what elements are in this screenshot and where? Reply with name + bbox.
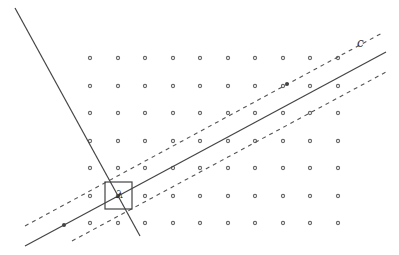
lattice-point: [336, 194, 339, 197]
lattice-point: [226, 56, 229, 59]
lattice-point: [226, 166, 229, 169]
lattice-point: [281, 221, 284, 224]
lattice-point: [143, 166, 146, 169]
lattice-point: [88, 84, 91, 87]
lattice-point: [308, 166, 311, 169]
lattice-diagram: [0, 0, 399, 255]
lattice-point: [198, 166, 201, 169]
lattice-point: [198, 56, 201, 59]
lattice-point: [171, 139, 174, 142]
lattice-point: [336, 139, 339, 142]
upper-marker-marker: [285, 82, 289, 86]
left-dot-marker: [62, 223, 66, 227]
lattice-point: [226, 139, 229, 142]
markers: [62, 82, 289, 227]
lattice-point: [88, 194, 91, 197]
lattice-point: [336, 166, 339, 169]
lattice-point: [143, 84, 146, 87]
label-c: c: [357, 36, 364, 50]
lattice-point: [88, 221, 91, 224]
lattice-point: [253, 166, 256, 169]
lattice-point: [198, 139, 201, 142]
lattice-point: [116, 166, 119, 169]
lattice-point: [171, 221, 174, 224]
lattice-point: [143, 221, 146, 224]
lattice-point: [116, 56, 119, 59]
lattice-point: [143, 56, 146, 59]
lattice-point: [226, 221, 229, 224]
lattice-point: [281, 166, 284, 169]
main-line-c: [25, 52, 386, 246]
lattice-point: [198, 84, 201, 87]
lattice-point: [171, 84, 174, 87]
label-lambda: λ: [116, 188, 124, 201]
lattice-point: [226, 111, 229, 114]
lattice-point: [116, 84, 119, 87]
lattice-point: [281, 111, 284, 114]
lattice-point: [281, 56, 284, 59]
lattice-point: [253, 221, 256, 224]
lattice-point: [171, 56, 174, 59]
lattice-point: [116, 111, 119, 114]
lattice-point: [281, 84, 284, 87]
lattice-point: [336, 221, 339, 224]
lattice-point: [116, 221, 119, 224]
lattice-point: [226, 84, 229, 87]
lattice-point: [308, 111, 311, 114]
lattice-point: [336, 84, 339, 87]
lattice-point: [308, 221, 311, 224]
lattice-point: [198, 111, 201, 114]
lattice-point: [171, 111, 174, 114]
lattice-point: [253, 84, 256, 87]
lattice-point: [308, 84, 311, 87]
lattice-point: [281, 194, 284, 197]
lattice-point: [281, 139, 284, 142]
lattice-point: [336, 111, 339, 114]
lattice-dots: [88, 56, 339, 224]
upper-dashed-line: [25, 32, 384, 226]
lower-dashed-line: [72, 72, 386, 241]
lattice-point: [143, 194, 146, 197]
lattice-point: [198, 194, 201, 197]
lattice-point: [143, 139, 146, 142]
lattice-point: [88, 111, 91, 114]
lattice-point: [143, 111, 146, 114]
lattice-point: [308, 139, 311, 142]
lattice-point: [253, 194, 256, 197]
lattice-point: [253, 56, 256, 59]
lattice-point: [88, 166, 91, 169]
lattice-point: [308, 56, 311, 59]
lattice-point: [253, 111, 256, 114]
lattice-point: [171, 194, 174, 197]
lattice-point: [308, 194, 311, 197]
lattice-point: [198, 221, 201, 224]
lattice-point: [116, 139, 119, 142]
steep-line: [15, 8, 140, 236]
lattice-point: [226, 194, 229, 197]
lattice-point: [88, 56, 91, 59]
